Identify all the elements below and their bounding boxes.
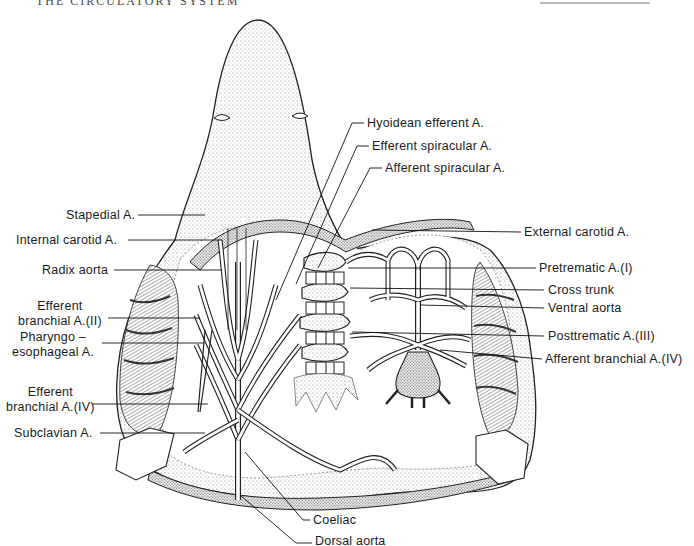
label-line-2: branchial A.(IV) <box>6 400 95 415</box>
label-cross-trunk: Cross trunk <box>548 283 614 297</box>
label-radix-aorta: Radix aorta <box>42 263 108 277</box>
label-line-1: Efferent <box>6 385 95 400</box>
label-line-2: branchial A.(II) <box>18 314 102 329</box>
label-hyoidean-efferent-artery: Hyoidean efferent A. <box>367 116 484 130</box>
label-ventral-aorta: Ventral aorta <box>548 301 621 315</box>
label-efferent-branchial-artery-4: Efferent branchial A.(IV) <box>6 385 95 415</box>
label-efferent-branchial-artery-2: Efferent branchial A.(II) <box>18 299 102 329</box>
label-pharyngo-esophageal-artery: Pharyngo – esophageal A. <box>12 330 94 360</box>
label-afferent-spiracular-artery: Afferent spiracular A. <box>385 161 505 175</box>
label-internal-carotid-artery: Internal carotid A. <box>16 233 117 247</box>
label-afferent-branchial-artery-4: Afferent branchial A.(IV) <box>545 352 682 366</box>
label-dorsal-aorta: Dorsal aorta <box>315 534 386 546</box>
label-external-carotid-artery: External carotid A. <box>524 225 629 239</box>
label-stapedial-artery: Stapedial A. <box>66 208 135 222</box>
label-line-1: Efferent <box>18 299 102 314</box>
label-pretrematic-artery: Pretrematic A.(I) <box>539 261 633 275</box>
label-coeliac-artery: Coeliac <box>313 513 356 527</box>
label-posttrematic-artery: Posttrematic A.(III) <box>548 329 655 343</box>
label-subclavian-artery: Subclavian A. <box>14 426 92 440</box>
label-line-2: esophageal A. <box>12 345 94 360</box>
label-efferent-spiracular-artery: Efferent spiracular A. <box>372 139 492 153</box>
figure: THE CIRCULATORY SYSTEM <box>0 0 694 546</box>
label-line-1: Pharyngo – <box>12 330 94 345</box>
